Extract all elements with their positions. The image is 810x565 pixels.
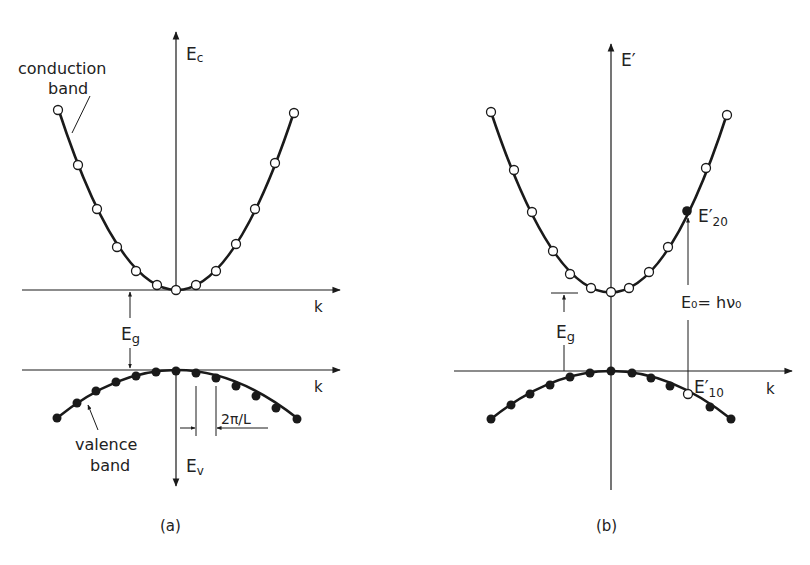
conduction-band-curve-b [491,112,727,293]
conduction-pointer [72,96,90,133]
ec-axis-label: Ec [186,44,203,65]
panel-a: Ec k conduction band Eg k Ev [18,32,340,535]
k-label-lower: k [314,378,323,396]
caption-b: (b) [596,517,617,535]
lower-state-label: E′10 [694,377,724,400]
eg-label-b: Eg [556,322,575,344]
spacing-label: 2π/L [221,411,251,427]
valence-band-label-1: valence [75,435,137,454]
k-label-b: k [766,380,775,398]
panel-b: E′ E′20 k Eg E₀= hν₀ E′1 [454,44,792,535]
empty-lower-state [684,390,693,399]
band-structure-figure: Ec k conduction band Eg k Ev [0,0,810,565]
valence-band-label-2: band [90,456,130,475]
eg-label-a: Eg [121,324,140,346]
transition-label: E₀= hν₀ [681,293,742,312]
occupied-upper-state [682,206,692,216]
k-label-upper: k [314,298,323,316]
valence-pointer [88,405,98,430]
upper-state-label: E′20 [698,206,728,229]
caption-a: (a) [160,517,181,535]
conduction-band-label-1: conduction [18,59,106,78]
e-prime-axis-label: E′ [621,50,636,70]
conduction-band-label-2: band [48,79,88,98]
ev-axis-label: Ev [186,456,204,478]
